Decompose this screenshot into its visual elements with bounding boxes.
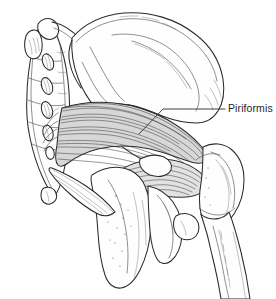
piriformis-label: Piriformis: [228, 102, 273, 114]
anatomy-drawing-canvas: [0, 0, 276, 299]
femur-shaft: [201, 212, 250, 299]
anatomy-illustration: Piriformis: [0, 0, 276, 299]
ischium-body: [91, 167, 151, 288]
lesser-trochanter: [174, 214, 199, 240]
